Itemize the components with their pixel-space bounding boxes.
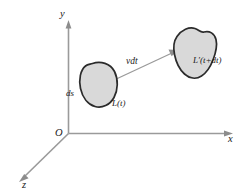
loop-final-label: L′(t+dt) xyxy=(193,56,222,65)
y-axis-arrowhead xyxy=(66,20,72,29)
y-axis-label: y xyxy=(60,9,65,20)
z-axis xyxy=(19,134,69,183)
loop-L-prime-outline xyxy=(174,28,217,78)
y-axis xyxy=(66,20,72,134)
origin-label: O xyxy=(55,128,63,139)
loop-L-prime-t-plus-dt xyxy=(174,28,217,78)
z-axis-label: z xyxy=(22,180,26,191)
figure-canvas: y x z O vdt ds L(t) L′(t+dt) xyxy=(0,0,247,195)
x-axis-label: x xyxy=(228,134,233,145)
z-axis-line xyxy=(25,134,69,177)
loop-initial-label: L(t) xyxy=(112,99,126,108)
line-element-label: ds xyxy=(66,89,74,98)
displacement-label: vdt xyxy=(126,57,138,67)
x-axis xyxy=(69,130,234,136)
